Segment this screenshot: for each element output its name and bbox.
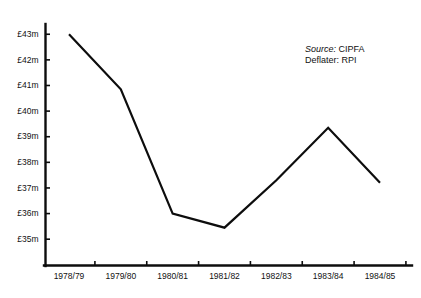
annotation-deflater-value: RPI xyxy=(342,55,357,65)
y-axis-tick-label: £40m xyxy=(17,106,38,116)
y-axis-tick-label: £36m xyxy=(17,208,38,218)
x-axis-tick-label: 1980/81 xyxy=(157,271,188,281)
x-axis-tick-label: 1979/80 xyxy=(105,271,136,281)
x-axis-tick-label: 1981/82 xyxy=(209,271,240,281)
x-axis-tick-label: 1978/79 xyxy=(54,271,85,281)
y-axis-tick-label: £38m xyxy=(17,157,38,167)
annotation-source-label: Source: xyxy=(305,44,336,54)
y-axis-tick-label: £43m xyxy=(17,29,38,39)
chart-annotation: Source: CIPFA Deflater: RPI xyxy=(305,44,365,66)
annotation-source-value: CIPFA xyxy=(339,44,365,54)
y-axis-tick-label: £35m xyxy=(17,234,38,244)
x-axis-tick-label: 1983/84 xyxy=(313,271,344,281)
annotation-deflater-line: Deflater: RPI xyxy=(305,55,365,66)
annotation-deflater-label: Deflater: xyxy=(305,55,339,65)
annotation-source-line: Source: CIPFA xyxy=(305,44,365,55)
x-axis-tick-label: 1982/83 xyxy=(261,271,292,281)
y-axis-tick-label: £39m xyxy=(17,131,38,141)
line-chart: £35m£36m£37m£38m£39m£40m£41m£42m£43m 197… xyxy=(0,0,421,298)
y-axis-tick-label: £42m xyxy=(17,55,38,65)
y-axis-tick-labels: £35m£36m£37m£38m£39m£40m£41m£42m£43m xyxy=(17,29,38,244)
x-axis-tick-labels: 1978/791979/801980/811981/821982/831983/… xyxy=(54,271,396,281)
x-axis-tick-label: 1984/85 xyxy=(365,271,396,281)
y-axis-tick-label: £37m xyxy=(17,183,38,193)
y-axis-tick-label: £41m xyxy=(17,80,38,90)
